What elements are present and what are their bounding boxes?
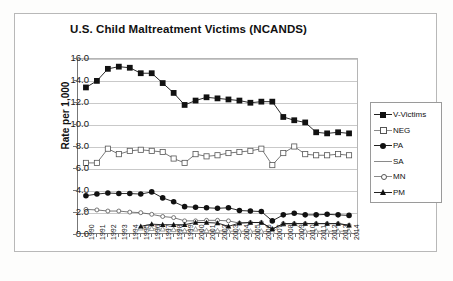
- x-tick-label: 1991: [99, 224, 106, 240]
- x-tick-mark: [328, 234, 329, 237]
- legend-item-neg[interactable]: NEG: [374, 123, 438, 139]
- x-tick-label: 2002: [221, 224, 228, 240]
- x-tick-mark: [284, 234, 285, 237]
- y-tick-mark: [73, 146, 77, 147]
- x-tick-mark: [240, 234, 241, 237]
- legend-label: NEG: [393, 126, 410, 135]
- x-tick-mark: [339, 234, 340, 237]
- dash-line-icon: [374, 156, 392, 167]
- y-tick-label: 8.0: [49, 140, 89, 151]
- legend-label: MN: [393, 172, 405, 181]
- x-tick-mark: [118, 234, 119, 237]
- legend-item-mn[interactable]: MN: [374, 169, 438, 185]
- open-square-icon: [374, 125, 392, 136]
- y-tick-label: 0.0: [49, 228, 89, 239]
- y-tick-label: 16.0: [49, 52, 89, 63]
- x-tick-label: 2007: [276, 224, 283, 240]
- legend-label: PA: [393, 141, 403, 150]
- x-tick-mark: [317, 234, 318, 237]
- x-tick-label: 1999: [187, 224, 194, 240]
- filled-square-icon: [374, 109, 392, 120]
- y-tick-label: 4.0: [49, 184, 89, 195]
- x-tick-mark: [251, 234, 252, 237]
- y-tick-mark: [73, 102, 77, 103]
- x-tick-label: 2012: [331, 224, 338, 240]
- series-v-victims: [83, 64, 352, 136]
- x-tick-label: 2004: [243, 224, 250, 240]
- legend-label: SA: [393, 157, 404, 166]
- series-canvas: [78, 59, 357, 234]
- series-neg: [83, 144, 351, 168]
- y-tick-mark: [73, 168, 77, 169]
- y-tick-label: 10.0: [49, 118, 89, 129]
- y-tick-mark: [73, 234, 77, 235]
- filled-triangle-icon: [374, 187, 392, 198]
- y-tick-mark: [73, 80, 77, 81]
- x-tick-mark: [306, 234, 307, 237]
- x-tick-label: 2003: [232, 224, 239, 240]
- y-tick-label: 2.0: [49, 206, 89, 217]
- x-tick-mark: [295, 234, 296, 237]
- legend-label: PM: [393, 188, 405, 197]
- x-tick-mark: [273, 234, 274, 237]
- x-tick-label: 2010: [309, 224, 316, 240]
- x-tick-mark: [195, 234, 196, 237]
- open-circle-icon: [374, 171, 392, 182]
- x-tick-label: 2013: [342, 224, 349, 240]
- x-tick-label: 1995: [143, 224, 150, 240]
- x-tick-label: 2000: [198, 224, 205, 240]
- x-tick-mark: [350, 234, 351, 237]
- x-tick-mark: [151, 234, 152, 237]
- x-tick-label: 1996: [154, 224, 161, 240]
- x-tick-mark: [229, 234, 230, 237]
- y-tick-mark: [73, 190, 77, 191]
- x-tick-mark: [129, 234, 130, 237]
- x-tick-label: 2008: [287, 224, 294, 240]
- y-tick-mark: [73, 124, 77, 125]
- x-tick-label: 1992: [110, 224, 117, 240]
- y-tick-label: 14.0: [49, 74, 89, 85]
- x-tick-label: 2011: [320, 225, 327, 240]
- x-tick-mark: [262, 234, 263, 237]
- x-tick-mark: [184, 234, 185, 237]
- x-tick-mark: [173, 234, 174, 237]
- y-tick-mark: [73, 212, 77, 213]
- x-tick-label: 2009: [298, 224, 305, 240]
- plot-area: [77, 58, 358, 234]
- x-tick-label: 2014: [353, 224, 360, 240]
- legend-item-pa[interactable]: PA: [374, 138, 438, 154]
- x-tick-mark: [218, 234, 219, 237]
- x-tick-label: 2005: [254, 224, 261, 240]
- x-tick-label: 1990: [88, 224, 95, 240]
- chart-title: U.S. Child Maltreatment Victims (NCANDS): [15, 23, 362, 35]
- x-tick-label: 1994: [132, 224, 139, 240]
- y-tick-label: 12.0: [49, 96, 89, 107]
- x-tick-mark: [107, 234, 108, 237]
- legend-item-sa[interactable]: SA: [374, 154, 438, 170]
- x-tick-label: 2001: [209, 224, 216, 240]
- x-tick-label: 1997: [165, 224, 172, 240]
- x-tick-mark: [162, 234, 163, 237]
- x-tick-mark: [85, 234, 86, 237]
- x-tick-mark: [140, 234, 141, 237]
- x-tick-label: 1993: [121, 224, 128, 240]
- y-tick-label: 6.0: [49, 162, 89, 173]
- x-tick-label: 2006: [265, 224, 272, 240]
- y-tick-mark: [73, 58, 77, 59]
- legend-item-pm[interactable]: PM: [374, 185, 438, 201]
- x-tick-label: 1998: [176, 224, 183, 240]
- legend-label: V-Victims: [393, 110, 426, 119]
- filled-circle-icon: [374, 140, 392, 151]
- chart-legend: V-VictimsNEGPASAMNPM: [370, 102, 442, 203]
- x-tick-mark: [96, 234, 97, 237]
- legend-item-v-victims[interactable]: V-Victims: [374, 107, 438, 123]
- x-tick-mark: [206, 234, 207, 237]
- chart-frame: U.S. Child Maltreatment Victims (NCANDS)…: [14, 13, 437, 252]
